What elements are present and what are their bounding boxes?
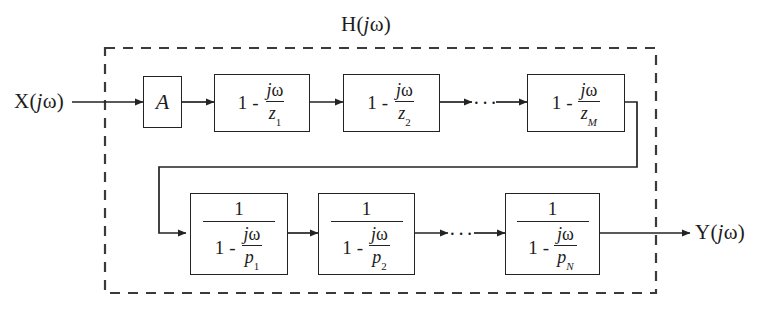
pole-2-minus: -	[357, 238, 363, 257]
input-signal-label: X(jω)	[14, 91, 64, 112]
pole-1-den-subscript: 1	[254, 260, 260, 272]
pole-2-inner-fraction: jω p2	[368, 225, 391, 270]
pole-block-1-expression: 1 1 - jω p1	[203, 199, 275, 270]
zero-1-denominator: z1	[266, 101, 285, 126]
pole-block-N: 1 1 - jω pN	[505, 193, 600, 275]
system-title-label: H(jω)	[341, 14, 391, 35]
zero-1-den-sym: z	[269, 103, 276, 123]
zero-M-numerator: jω	[577, 81, 600, 101]
poles-row-ellipsis: ···	[449, 224, 475, 244]
zero-2-minus: -	[382, 92, 388, 114]
pole-1-den: p1	[242, 245, 263, 270]
pole-block-N-expression: 1 1 - jω pN	[517, 199, 589, 270]
pole-N-num-omega: ω	[562, 224, 574, 244]
pole-2-inner-expression: 1 - jω p2	[342, 225, 391, 270]
zero-1-minus: -	[252, 92, 258, 114]
pole-1-inner-fraction: jω p1	[240, 225, 263, 270]
zero-block-1-expression: 1 - jω z1	[238, 81, 287, 126]
pole-block-1: 1 1 - jω p1	[190, 193, 288, 275]
pole-2-one: 1	[342, 238, 352, 257]
zero-2-fraction: jω z2	[393, 81, 416, 126]
pole-2-top-numerator: 1	[362, 199, 372, 221]
zero-2-numerator: jω	[393, 81, 416, 101]
zero-block-2-expression: 1 - jω z2	[367, 81, 416, 126]
pole-N-num: jω	[554, 225, 577, 245]
zero-M-fraction: jω zM	[577, 81, 600, 126]
zero-1-num-omega: ω	[271, 80, 283, 100]
pole-N-inner-fraction: jω pN	[554, 225, 577, 270]
zero-block-2: 1 - jω z2	[343, 74, 440, 132]
pole-2-bottom-denominator: 1 - jω p2	[342, 222, 391, 270]
zeros-row-ellipsis: ···	[473, 93, 499, 113]
zero-M-denominator: zM	[578, 101, 600, 126]
pole-2-den-subscript: 2	[381, 260, 387, 272]
zero-M-den-subscript: M	[588, 116, 597, 128]
pole-block-2-expression: 1 1 - jω p2	[331, 199, 403, 270]
pole-N-one: 1	[528, 238, 538, 257]
zero-M-num-omega: ω	[585, 80, 597, 100]
pole-1-one: 1	[215, 238, 225, 257]
input-label-fn: X	[14, 89, 29, 113]
zero-M-minus: -	[566, 92, 572, 114]
pole-N-top-numerator: 1	[548, 199, 558, 221]
system-title-close-paren: )	[384, 12, 391, 36]
output-signal-label: Y(jω)	[695, 222, 745, 243]
pole-N-den: pN	[554, 245, 576, 270]
zero-2-denominator: z2	[395, 101, 414, 126]
zero-block-M: 1 - jω zM	[527, 74, 625, 132]
zero-1-one: 1	[238, 92, 248, 114]
pole-1-top-numerator: 1	[234, 199, 244, 221]
pole-1-num-omega: ω	[248, 224, 260, 244]
input-label-close-paren: )	[57, 89, 64, 113]
pole-1-den-sym: p	[245, 247, 254, 267]
output-label-fn: Y	[695, 220, 710, 244]
zero-M-den-sym: z	[581, 103, 588, 123]
pole-N-inner-expression: 1 - jω pN	[528, 225, 577, 270]
pole-1-minus: -	[229, 238, 235, 257]
zero-2-den-subscript: 2	[405, 116, 411, 128]
zero-M-one: 1	[552, 92, 562, 114]
pole-N-den-sym: p	[557, 247, 566, 267]
zero-2-num-omega: ω	[401, 80, 413, 100]
pole-N-minus: -	[543, 238, 549, 257]
zero-block-1: 1 - jω z1	[214, 74, 310, 132]
system-title-fn: H	[341, 12, 356, 36]
output-label-omega: ω	[724, 220, 738, 244]
zero-1-den-subscript: 1	[276, 116, 282, 128]
zero-2-one: 1	[367, 92, 377, 114]
pole-2-den: p2	[369, 245, 390, 270]
zero-block-M-expression: 1 - jω zM	[552, 81, 601, 126]
pole-2-num-omega: ω	[376, 224, 388, 244]
pole-1-bottom-denominator: 1 - jω p1	[215, 222, 264, 270]
system-title-open-paren: (	[356, 12, 363, 36]
pole-1-num: jω	[240, 225, 263, 245]
output-label-open-paren: (	[710, 220, 717, 244]
output-label-close-paren: )	[738, 220, 745, 244]
system-title-omega: ω	[370, 12, 384, 36]
pole-block-2: 1 1 - jω p2	[318, 193, 415, 275]
pole-1-inner-expression: 1 - jω p1	[215, 225, 264, 270]
pole-2-den-sym: p	[372, 247, 381, 267]
pole-N-bottom-denominator: 1 - jω pN	[528, 222, 577, 270]
block-diagram: H(jω) X(jω) Y(jω) A 1 - jω z1 1 - jω z2	[0, 0, 767, 311]
gain-block-A: A	[143, 76, 182, 128]
input-label-omega: ω	[43, 89, 57, 113]
pole-N-den-subscript: N	[566, 260, 573, 272]
gain-block-label: A	[156, 89, 169, 115]
input-label-open-paren: (	[29, 89, 36, 113]
zero-1-fraction: jω z1	[263, 81, 286, 126]
pole-2-num: jω	[368, 225, 391, 245]
zero-1-numerator: jω	[263, 81, 286, 101]
